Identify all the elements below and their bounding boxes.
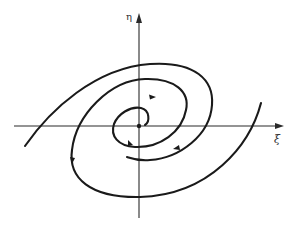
phase-portrait-figure: η ξ	[0, 0, 294, 228]
trajectory-a	[25, 64, 212, 161]
xi-axis-label: ξ	[274, 134, 280, 145]
trajectory-b	[72, 79, 261, 197]
arrow-icon	[149, 95, 156, 100]
eta-axis-arrowhead-icon	[136, 13, 142, 23]
flow-arrows	[70, 95, 180, 165]
arrow-icon	[173, 145, 180, 150]
equilibrium-point	[137, 124, 141, 128]
xi-axis-arrowhead-icon	[275, 123, 284, 129]
eta-axis	[136, 13, 142, 218]
phase-portrait-svg	[0, 0, 294, 228]
eta-axis-label: η	[126, 12, 132, 22]
xi-axis	[14, 123, 284, 129]
arrow-icon	[128, 140, 133, 146]
